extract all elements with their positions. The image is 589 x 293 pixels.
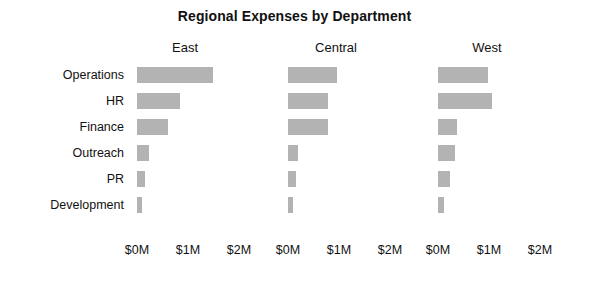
bar-row — [283, 192, 429, 218]
bar-row — [132, 140, 278, 166]
x-tick-label: $2M — [517, 243, 563, 257]
category-label-finance: Finance — [0, 114, 132, 140]
bar-row — [433, 62, 579, 88]
bar-row — [132, 166, 278, 192]
x-axis-east: $0M $1M $2M — [114, 243, 284, 263]
x-tick-label: $1M — [316, 243, 362, 257]
x-tick-label: $0M — [415, 243, 461, 257]
bar-row — [132, 88, 278, 114]
bar-row — [433, 140, 579, 166]
bar-central-development — [288, 197, 293, 213]
bar-row — [433, 114, 579, 140]
bar-row — [283, 62, 429, 88]
x-tick-label: $2M — [216, 243, 262, 257]
bar-row — [132, 114, 278, 140]
bar-east-hr — [137, 93, 180, 109]
bar-row — [433, 166, 579, 192]
bar-central-outreach — [288, 145, 298, 161]
panel-title-central: Central — [276, 40, 396, 55]
bar-central-operations — [288, 67, 337, 83]
category-label-pr: PR — [0, 166, 132, 192]
category-label-operations: Operations — [0, 62, 132, 88]
bar-west-hr — [438, 93, 492, 109]
chart-container: Regional Expenses by Department East Cen… — [0, 0, 589, 293]
bar-east-development — [137, 197, 142, 213]
bar-central-pr — [288, 171, 296, 187]
category-label-development: Development — [0, 192, 132, 218]
panel-title-west: West — [427, 40, 547, 55]
bar-east-operations — [137, 67, 213, 83]
bar-row — [283, 114, 429, 140]
category-label-outreach: Outreach — [0, 140, 132, 166]
bar-west-development — [438, 197, 444, 213]
plot-panel-east — [132, 62, 278, 218]
category-label-hr: HR — [0, 88, 132, 114]
x-tick-label: $0M — [265, 243, 311, 257]
bar-row — [132, 62, 278, 88]
panel-title-east: East — [125, 40, 245, 55]
plot-panel-central — [283, 62, 429, 218]
bar-west-operations — [438, 67, 488, 83]
x-tick-label: $0M — [114, 243, 160, 257]
bar-row — [132, 192, 278, 218]
plot-panel-west — [433, 62, 579, 218]
bar-row — [433, 88, 579, 114]
bar-west-finance — [438, 119, 457, 135]
bar-row — [433, 192, 579, 218]
bar-east-pr — [137, 171, 145, 187]
category-axis-labels: Operations HR Finance Outreach PR Develo… — [0, 62, 132, 218]
bar-row — [283, 88, 429, 114]
bar-west-pr — [438, 171, 450, 187]
bar-central-hr — [288, 93, 328, 109]
chart-title: Regional Expenses by Department — [0, 8, 589, 24]
bar-row — [283, 140, 429, 166]
bar-row — [283, 166, 429, 192]
bar-east-outreach — [137, 145, 149, 161]
x-tick-label: $2M — [367, 243, 413, 257]
x-tick-label: $1M — [165, 243, 211, 257]
x-tick-label: $1M — [466, 243, 512, 257]
bar-east-finance — [137, 119, 168, 135]
x-axis-central: $0M $1M $2M — [265, 243, 435, 263]
bar-west-outreach — [438, 145, 455, 161]
x-axis-west: $0M $1M $2M — [415, 243, 585, 263]
bar-central-finance — [288, 119, 328, 135]
